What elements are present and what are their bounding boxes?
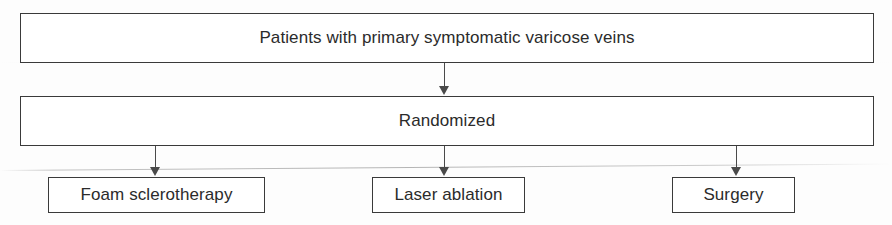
connector-line <box>155 146 156 169</box>
node-patients-label: Patients with primary symptomatic varico… <box>259 28 634 48</box>
scan-artifact-lower <box>0 163 892 171</box>
connector-line <box>736 146 737 169</box>
node-foam-label: Foam sclerotherapy <box>80 185 232 205</box>
node-patients: Patients with primary symptomatic varico… <box>20 13 874 63</box>
node-randomized-label: Randomized <box>399 111 495 131</box>
node-randomized: Randomized <box>20 96 874 146</box>
node-laser-ablation: Laser ablation <box>372 177 525 213</box>
arrowhead-icon <box>731 167 741 176</box>
arrowhead-icon <box>150 167 160 176</box>
arrowhead-icon <box>439 86 449 95</box>
arrowhead-icon <box>439 167 449 176</box>
node-foam-sclerotherapy: Foam sclerotherapy <box>48 177 265 213</box>
node-laser-label: Laser ablation <box>394 185 502 205</box>
flowchart-diagram: Patients with primary symptomatic varico… <box>0 0 892 225</box>
node-surgery-label: Surgery <box>703 185 763 205</box>
node-surgery: Surgery <box>672 177 795 213</box>
connector-line <box>444 63 445 88</box>
connector-line <box>444 146 445 169</box>
